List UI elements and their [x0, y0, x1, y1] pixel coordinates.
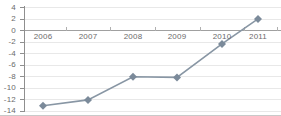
line-chart: 4 2 0 -2 -4 -6 -8 -10 -12 -14 2006 2007 …	[0, 0, 281, 116]
y-tick-label: 0	[0, 26, 16, 35]
y-tick-label: -8	[0, 72, 16, 81]
x-tick-label-2007: 2007	[71, 32, 105, 41]
y-tick-label: -4	[0, 49, 16, 58]
y-tick-label: -10	[0, 83, 16, 92]
x-tick-label-2008: 2008	[116, 32, 150, 41]
gridlines-horizontal	[24, 8, 281, 112]
x-tick-label-2011: 2011	[241, 32, 275, 41]
y-tick-label: 2	[0, 14, 16, 23]
data-point-marker	[129, 73, 137, 81]
x-tick-label-2010: 2010	[205, 32, 239, 41]
y-tick-label: -12	[0, 95, 16, 104]
series-markers	[39, 15, 262, 110]
y-tick-label: -6	[0, 60, 16, 69]
x-tick-label-2009: 2009	[160, 32, 194, 41]
y-tick-label: -2	[0, 37, 16, 46]
y-tick-label: -14	[0, 106, 16, 115]
y-tick-label: 4	[0, 3, 16, 12]
x-tick-label-2006: 2006	[26, 32, 60, 41]
y-axis-ticks	[20, 8, 24, 112]
chart-canvas	[0, 0, 281, 116]
data-point-marker	[84, 96, 92, 104]
data-point-marker	[39, 102, 47, 110]
